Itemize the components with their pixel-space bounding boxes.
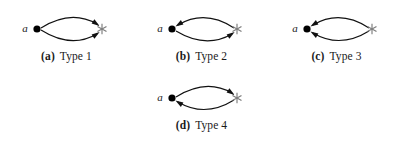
node-label-a: a <box>292 22 298 34</box>
caption-panel-c: (c)Type 3 <box>270 50 403 62</box>
node-label-a: a <box>22 22 28 34</box>
edge-upper-arc <box>41 17 97 28</box>
arrowhead-upper-to-star <box>92 19 100 26</box>
figure-panel-b: a (b)Type 2 <box>135 6 268 74</box>
arrowhead-upper-to-dot <box>310 20 318 27</box>
figure-panel-d: a (d)Type 4 <box>135 75 268 143</box>
figure-panel-c: a (c)Type 3 <box>270 6 403 74</box>
caption-panel-b: (b)Type 2 <box>135 50 268 62</box>
arrowhead-upper-to-star <box>227 88 235 95</box>
caption-tag-d: (d) <box>176 119 190 131</box>
diagram-type-2: a <box>135 6 268 51</box>
edge-lower-arc <box>176 31 232 41</box>
caption-label-d: Type 4 <box>195 119 227 131</box>
caption-label-c: Type 3 <box>330 50 362 62</box>
node-dot-a <box>168 25 175 32</box>
edge-upper-arc <box>176 86 232 97</box>
caption-label-a: Type 1 <box>60 50 92 62</box>
node-label-a: a <box>157 22 163 34</box>
edge-lower-arc <box>41 30 97 41</box>
arrowhead-lower-to-star <box>92 32 100 39</box>
arrowhead-lower-to-dot <box>175 100 183 107</box>
arrowhead-lower-to-dot <box>310 31 318 38</box>
caption-tag-b: (b) <box>176 50 190 62</box>
node-dot-a <box>168 94 175 101</box>
caption-panel-a: (a)Type 1 <box>0 50 133 62</box>
arrowhead-lower-to-star <box>227 32 235 39</box>
caption-tag-c: (c) <box>311 50 324 62</box>
edge-lower-arc <box>313 31 369 41</box>
edge-lower-arc <box>178 100 234 110</box>
caption-label-b: Type 2 <box>195 50 227 62</box>
node-label-a: a <box>157 91 163 103</box>
diagram-type-4: a <box>135 75 268 120</box>
arrowhead-upper-to-dot <box>175 20 183 27</box>
node-dot-a <box>303 25 310 32</box>
caption-tag-a: (a) <box>41 50 55 62</box>
diagram-type-3: a <box>270 6 403 51</box>
node-star-icon <box>368 24 377 34</box>
edge-upper-arc <box>178 18 234 28</box>
diagram-type-1: a <box>0 6 133 51</box>
edge-upper-arc <box>313 18 369 28</box>
figure-panel-a: a (a)Type 1 <box>0 6 133 74</box>
caption-panel-d: (d)Type 4 <box>135 119 268 131</box>
node-dot-a <box>33 25 40 32</box>
